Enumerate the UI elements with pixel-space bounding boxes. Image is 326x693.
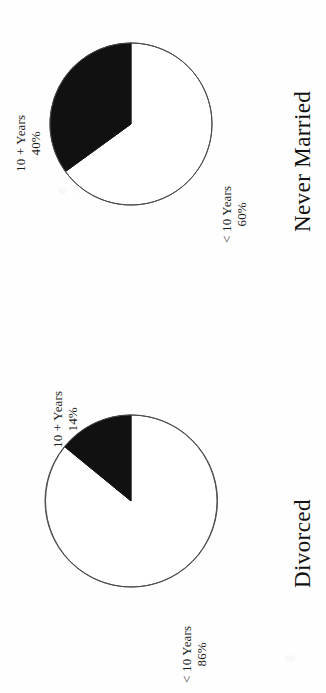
slice-label-divorced-over10: 10 + Years 14%: [50, 391, 81, 448]
slice-label-value: 60%: [234, 186, 249, 243]
chart-title-divorced: Divorced: [289, 499, 316, 588]
slice-label-category: 10 + Years: [50, 391, 65, 448]
chart-title-never-married: Never Married: [289, 91, 316, 232]
slice-label-never-married-over10: 10 + Years 40%: [13, 115, 44, 172]
slice-label-value: 14%: [65, 391, 80, 448]
slice-label-category: 10 + Years: [13, 115, 28, 172]
slice-label-category: < 10 Years: [179, 626, 194, 683]
pie-chart-never-married: [48, 41, 214, 207]
slice-label-value: 40%: [28, 115, 43, 172]
slice-label-divorced-under10: < 10 Years 86%: [179, 626, 210, 683]
pie-chart-never-married-svg: [48, 41, 214, 207]
scanned-page: 10 + Years 40% < 10 Years 60% Never Marr…: [0, 0, 326, 693]
slice-label-never-married-under10: < 10 Years 60%: [219, 186, 250, 243]
slice-label-category: < 10 Years: [219, 186, 234, 243]
slice-label-value: 86%: [194, 626, 209, 683]
scan-blemish: [285, 655, 295, 662]
